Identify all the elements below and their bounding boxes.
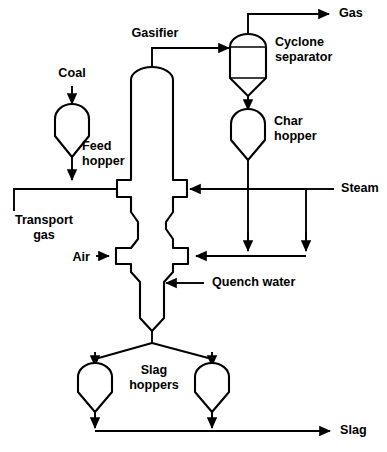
gasifier-overhead-stream <box>152 48 229 68</box>
transport-gas-stream <box>14 189 130 211</box>
transport-gas-label-line1: Transport <box>15 213 74 227</box>
coal-label: Coal <box>58 66 85 80</box>
char-hopper-shell <box>231 109 265 160</box>
transport-gas-label-line2: gas <box>33 228 55 242</box>
feed-hopper-label-line2: hopper <box>82 154 125 168</box>
gas-label: Gas <box>339 6 363 20</box>
slag-hoppers-label-line1: Slag <box>141 363 168 377</box>
steam-label: Steam <box>341 181 379 195</box>
slag-hopper-right-shell <box>195 363 229 412</box>
slag-hopper-left-shell <box>78 363 112 412</box>
process-flow-diagram: Gas Cyclone separator Gasifier Char hop <box>0 0 387 452</box>
slag-label: Slag <box>340 423 367 437</box>
slag-hoppers-label-line2: hoppers <box>129 378 179 392</box>
slag-hopper-right <box>195 363 229 412</box>
steam-stream <box>190 189 334 256</box>
slag-product-stream <box>95 412 330 431</box>
cyclone-separator-label-line1: Cyclone <box>275 35 324 49</box>
air-label: Air <box>73 250 91 264</box>
char-hopper-label-line2: hopper <box>274 129 317 143</box>
char-hopper-label-line1: Char <box>274 114 303 128</box>
gasifier <box>116 67 188 331</box>
gasifier-overhead-pipe <box>152 48 222 68</box>
cyclone-separator-shell <box>230 34 266 96</box>
gasifier-shell <box>116 67 188 331</box>
slag-hopper-left <box>78 363 112 412</box>
transport-gas-pipe <box>14 189 124 211</box>
slag-branch-right <box>152 343 212 359</box>
cyclone-separator-label-line2: separator <box>275 50 332 64</box>
cyclone-separator <box>230 34 266 96</box>
gasifier-label: Gasifier <box>132 26 179 40</box>
char-hopper <box>231 109 265 160</box>
quench-water-label: Quench water <box>212 275 295 289</box>
feed-hopper-label-line1: Feed <box>82 139 111 153</box>
pfd-canvas: Gas Cyclone separator Gasifier Char hop <box>0 0 387 452</box>
slag-branch-left <box>95 343 152 359</box>
slag-splitter <box>95 331 212 366</box>
